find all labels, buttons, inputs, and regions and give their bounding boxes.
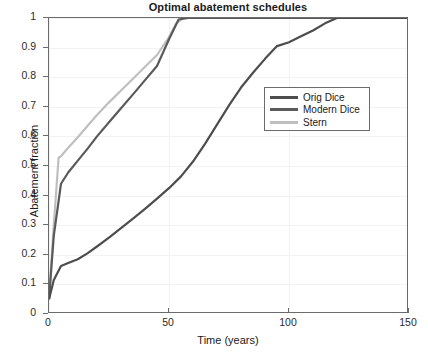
y-tick-label: 0.9 — [21, 41, 36, 52]
y-tick-mark — [43, 313, 48, 314]
series-line — [49, 18, 408, 299]
x-tick-mark — [288, 308, 289, 313]
x-tick-mark — [48, 308, 49, 313]
chart-figure: Optimal abatement schedules 00.10.20.30.… — [0, 0, 428, 359]
series-line — [49, 18, 408, 299]
legend-line-icon — [270, 108, 298, 111]
y-tick-mark — [43, 135, 48, 136]
y-tick-label: 0.1 — [21, 277, 36, 288]
legend-label: Orig Dice — [303, 92, 345, 103]
legend-line-icon — [270, 121, 298, 124]
legend-line-icon — [270, 96, 298, 99]
y-axis-label: Abatement fraction — [28, 71, 40, 271]
y-tick-mark — [43, 224, 48, 225]
x-tick-label: 0 — [28, 316, 68, 328]
x-tick-mark — [168, 308, 169, 313]
y-tick-mark — [43, 76, 48, 77]
x-tick-label: 150 — [388, 316, 428, 328]
y-tick-mark — [43, 195, 48, 196]
legend-item[interactable]: Stern — [265, 116, 369, 129]
y-tick-label: 1 — [30, 11, 36, 22]
y-tick-mark — [43, 283, 48, 284]
plot-area — [48, 17, 408, 313]
y-tick-mark — [43, 17, 48, 18]
y-tick-mark — [43, 106, 48, 107]
legend-item[interactable]: Modern Dice — [265, 104, 369, 117]
legend-item[interactable]: Orig Dice — [265, 91, 369, 104]
series-line — [49, 18, 408, 299]
legend-label: Stern — [303, 117, 327, 128]
x-tick-label: 50 — [148, 316, 188, 328]
x-axis-label: Time (years) — [48, 334, 408, 346]
legend-label: Modern Dice — [303, 104, 360, 115]
series-lines — [49, 18, 408, 313]
x-tick-mark — [408, 308, 409, 313]
legend: Orig DiceModern DiceStern — [264, 87, 370, 131]
chart-title: Optimal abatement schedules — [48, 1, 408, 13]
x-tick-label: 100 — [268, 316, 308, 328]
y-tick-mark — [43, 254, 48, 255]
y-tick-mark — [43, 165, 48, 166]
y-tick-mark — [43, 47, 48, 48]
